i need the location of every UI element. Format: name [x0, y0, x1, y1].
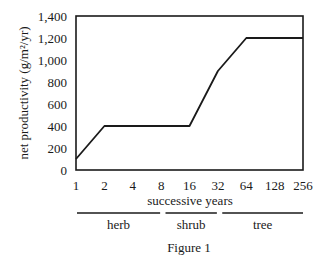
figure-caption: Figure 1 [167, 240, 211, 255]
y-tick-label: 800 [48, 75, 68, 90]
x-tick-label: 128 [265, 178, 285, 193]
chart: 02004006008001,0001,2001,400 12481632641… [0, 0, 325, 263]
x-tick-label: 32 [211, 178, 224, 193]
x-tick-label: 16 [183, 178, 197, 193]
stage-label-tree: tree [253, 217, 273, 232]
x-tick-label: 64 [240, 178, 254, 193]
y-tick-label: 400 [48, 119, 68, 134]
x-tick-label: 256 [293, 178, 313, 193]
plot-frame [76, 16, 303, 170]
productivity-line [76, 38, 303, 159]
x-tick-label: 8 [158, 178, 165, 193]
x-tick-label: 4 [130, 178, 137, 193]
x-tick-label: 2 [101, 178, 108, 193]
y-tick-label: 1,400 [38, 9, 67, 24]
y-axis-label: net productivity (g/m²/yr) [16, 26, 31, 159]
y-tick-label: 1,200 [38, 31, 67, 46]
succession-stages: herbshrubtree [77, 213, 303, 232]
stage-label-shrub: shrub [177, 217, 206, 232]
y-axis-ticks: 02004006008001,0001,2001,400 [38, 9, 67, 178]
y-tick-label: 200 [48, 141, 68, 156]
y-tick-label: 600 [48, 97, 68, 112]
stage-label-herb: herb [107, 217, 130, 232]
x-axis-ticks: 1248163264128256 [73, 178, 314, 193]
x-tick-label: 1 [73, 178, 80, 193]
y-tick-label: 1,000 [38, 53, 67, 68]
x-axis-label: successive years [147, 193, 233, 208]
y-tick-label: 0 [61, 163, 68, 178]
